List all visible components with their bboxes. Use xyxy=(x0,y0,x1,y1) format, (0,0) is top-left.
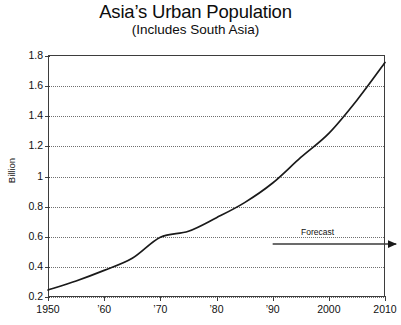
gridline xyxy=(49,177,384,178)
x-axis-tick xyxy=(273,296,274,301)
x-axis-tick xyxy=(48,296,49,301)
y-axis-tick xyxy=(45,177,50,178)
y-axis-tick xyxy=(45,207,50,208)
y-axis-tick xyxy=(45,267,50,268)
gridline xyxy=(49,116,384,117)
gridline xyxy=(49,237,384,238)
y-axis-tick-label: 0.6 xyxy=(0,231,43,241)
x-axis-tick-label: 2000 xyxy=(299,303,359,315)
x-axis-tick-label: ’60 xyxy=(74,303,134,315)
y-axis-tick-label: 1 xyxy=(0,171,43,181)
gridline xyxy=(49,146,384,147)
gridline xyxy=(49,267,384,268)
y-axis-tick-label: 1.8 xyxy=(0,50,43,60)
gridline xyxy=(49,86,384,87)
x-axis-tick xyxy=(104,296,105,301)
x-axis-tick-label: ’70 xyxy=(130,303,190,315)
y-axis-tick xyxy=(45,86,50,87)
x-axis-tick xyxy=(385,296,386,301)
y-axis-tick xyxy=(45,237,50,238)
x-axis-tick xyxy=(217,296,218,301)
x-axis-tick-label: 2010 xyxy=(355,303,401,315)
y-axis-tick xyxy=(45,116,50,117)
forecast-annotation-label: Forecast xyxy=(301,227,334,237)
gridline xyxy=(49,207,384,208)
y-axis-tick-label: 0.4 xyxy=(0,261,43,271)
chart-subtitle: (Includes South Asia) xyxy=(0,22,391,38)
x-axis-tick xyxy=(160,296,161,301)
plot-area xyxy=(48,55,385,296)
y-axis-tick-label: 1.6 xyxy=(0,80,43,90)
y-axis-tick-label: 0.8 xyxy=(0,201,43,211)
y-axis-tick-label: 1.4 xyxy=(0,110,43,120)
x-axis-tick-label: 1950 xyxy=(18,303,78,315)
y-axis-tick xyxy=(45,146,50,147)
x-axis-tick-label: ’80 xyxy=(187,303,247,315)
x-axis-tick-label: ’90 xyxy=(243,303,303,315)
y-axis-tick xyxy=(45,56,50,57)
y-axis-tick-label: 1.2 xyxy=(0,140,43,150)
chart-title: Asia’s Urban Population xyxy=(0,1,391,22)
y-axis-tick-label: 0.2 xyxy=(0,291,43,301)
x-axis-tick xyxy=(329,296,330,301)
